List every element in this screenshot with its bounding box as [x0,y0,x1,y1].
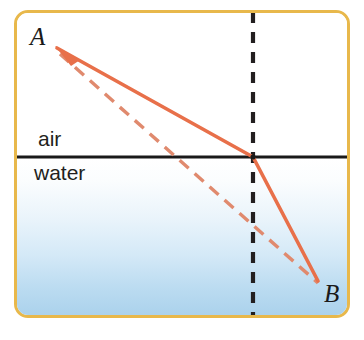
point-label-b: B [324,281,339,306]
refraction-diagram: A B air water [0,0,364,340]
medium-label-air: air [38,128,61,149]
medium-label-water: water [34,162,85,183]
point-label-a: A [30,24,45,49]
ray-arrowhead-icon [55,46,80,66]
incidence-point-marker [250,154,255,159]
apparent-ray-dashed [60,54,318,283]
